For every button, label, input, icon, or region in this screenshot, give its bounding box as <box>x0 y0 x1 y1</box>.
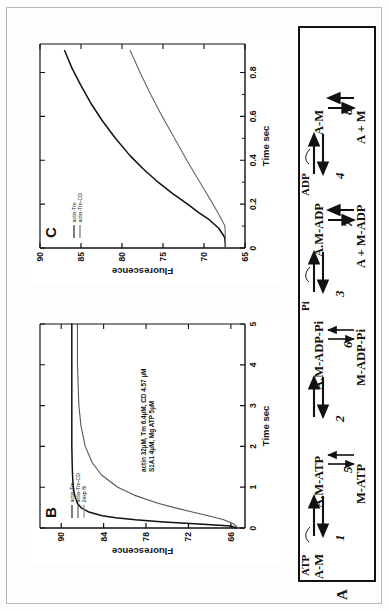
step-5: 5 <box>340 467 356 474</box>
y-axis-label: Fluorescence <box>112 546 173 557</box>
figure-page: A <box>0 0 389 611</box>
ligand-pi: Pi <box>299 301 311 311</box>
step-7: 7 <box>340 221 356 228</box>
x-tick-label: 0 <box>248 525 258 530</box>
species-m-adp-pi: M-ADP-Pi <box>354 329 369 386</box>
y-tick-label: 84 <box>99 532 109 542</box>
panel-b-chart: 0123456672788490BTime secFluorescenceact… <box>26 314 281 564</box>
x-tick-label: 0.4 <box>248 154 258 166</box>
species-am-adp: A.M-ADP <box>312 203 327 257</box>
x-tick-label: 2 <box>248 444 258 449</box>
x-tick-label: 5 <box>248 321 258 326</box>
x-tick-label: 4 <box>248 362 258 367</box>
panel-tag: C <box>42 227 59 238</box>
legend-entry: actin-Tm-CD <box>77 193 83 223</box>
y-tick-label: 90 <box>35 252 45 262</box>
x-tick-label: 0.8 <box>248 66 258 78</box>
series-actin-tm-cd <box>77 324 237 528</box>
series-actin-tm-cd <box>130 51 225 248</box>
y-tick-label: 90 <box>56 532 66 542</box>
species-am-left: A-M <box>312 554 327 579</box>
panel-tag: B <box>42 507 59 518</box>
series-actin-tm <box>65 51 226 248</box>
x-tick-label: 0.6 <box>248 110 258 122</box>
ligand-adp: ADP <box>299 173 311 196</box>
y-tick-label: 80 <box>117 252 127 262</box>
species-a-plus-m-adp: A + M-ADP <box>354 205 369 268</box>
x-axis-label: Time sec <box>260 126 271 167</box>
panel-c-chart: 00.20.40.60.8657075808590CTime secFluore… <box>26 34 281 284</box>
y-axis-label: Fluorescence <box>112 266 173 277</box>
species-am-right: A-M <box>312 110 327 135</box>
step-2: 2 <box>332 416 348 423</box>
step-4: 4 <box>332 173 348 180</box>
x-tick-label: 3 <box>248 403 258 408</box>
x-tick-label: 0 <box>248 245 258 250</box>
x-axis-label: Time sec <box>260 406 271 447</box>
y-tick-label: 78 <box>141 532 151 542</box>
step-8: 8 <box>340 109 356 116</box>
legend-entry: 2exp fit <box>81 485 87 502</box>
x-tick-label: 1 <box>248 485 258 490</box>
step-6: 6 <box>340 342 356 349</box>
x-tick-label: 0.2 <box>248 198 258 210</box>
step-3: 3 <box>332 291 348 298</box>
step-1: 1 <box>332 535 348 542</box>
ligand-atp: ATP <box>299 555 311 576</box>
species-am-atp: A.M-ATP <box>312 456 327 508</box>
species-am-adp-pi: A.M-ADP-Pi <box>312 321 327 390</box>
y-tick-label: 72 <box>183 532 193 542</box>
figure-stage: A <box>6 7 382 604</box>
y-tick-label: 70 <box>199 252 209 262</box>
y-tick-label: 66 <box>226 532 236 542</box>
panel-a-label: A <box>334 589 351 600</box>
y-tick-label: 75 <box>158 252 168 262</box>
chart-annotation: S1A1 4µM, Mg ATP 5µM <box>148 401 156 472</box>
y-tick-label: 65 <box>240 252 250 262</box>
y-tick-label: 85 <box>76 252 86 262</box>
species-a-plus-m: A + M <box>354 110 369 144</box>
species-m-atp: M-ATP <box>354 464 369 504</box>
